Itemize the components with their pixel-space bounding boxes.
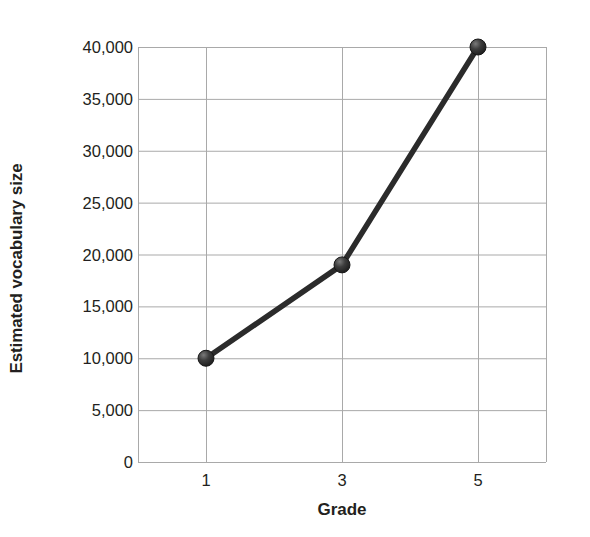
plot-area bbox=[0, 0, 590, 537]
data-point-1 bbox=[198, 350, 214, 366]
x-tick-label-1: 1 bbox=[201, 472, 210, 489]
data-point-5 bbox=[470, 39, 486, 55]
x-axis-tick-labels: 135 bbox=[0, 472, 590, 494]
x-tick-label-5: 5 bbox=[473, 472, 482, 489]
x-tick-label-3: 3 bbox=[337, 472, 346, 489]
x-axis-title: Grade bbox=[138, 500, 546, 520]
line-chart: Estimated vocabulary size 05,00010,00015… bbox=[0, 0, 590, 537]
data-point-3 bbox=[334, 257, 350, 273]
